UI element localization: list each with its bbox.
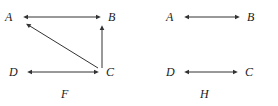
graph-node-label-b: B bbox=[247, 11, 254, 23]
arrowhead bbox=[27, 70, 32, 75]
graph-edge bbox=[23, 15, 101, 20]
graph-node-label-a: A bbox=[166, 11, 173, 23]
graph-edge bbox=[100, 25, 105, 68]
graph-node-label-d: D bbox=[9, 66, 18, 78]
arrowhead bbox=[94, 70, 99, 75]
arrowhead bbox=[233, 70, 238, 75]
arrowhead bbox=[23, 15, 28, 20]
arrowhead bbox=[96, 15, 101, 20]
figure-caption: F bbox=[61, 88, 68, 100]
graph-edge bbox=[184, 15, 240, 20]
arrowhead bbox=[100, 25, 105, 30]
graph-edge bbox=[184, 70, 238, 75]
arrowhead bbox=[184, 15, 189, 20]
arrowhead bbox=[184, 70, 189, 75]
graph-figure-h: ABDCH bbox=[139, 0, 278, 106]
graph-node-label-d: D bbox=[166, 66, 175, 78]
graph-node-label-c: C bbox=[106, 66, 114, 78]
graph-node-label-a: A bbox=[5, 11, 12, 23]
figure-pair: ABDCF ABDCH bbox=[0, 0, 278, 106]
graph-edges bbox=[0, 0, 139, 106]
edge-line bbox=[29, 25, 98, 68]
graph-node-label-c: C bbox=[245, 66, 253, 78]
graph-edge bbox=[26, 24, 98, 68]
graph-figure-f: ABDCF bbox=[0, 0, 139, 106]
figure-caption: H bbox=[200, 88, 209, 100]
graph-node-label-b: B bbox=[108, 11, 115, 23]
arrowhead bbox=[235, 15, 240, 20]
graph-edge bbox=[27, 70, 99, 75]
